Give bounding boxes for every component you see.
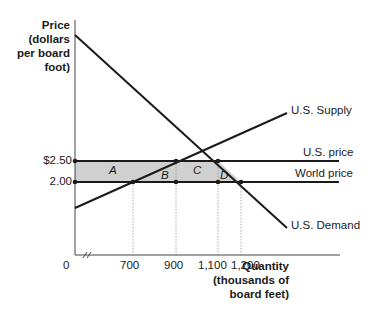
x-tick-900: 900 xyxy=(164,259,183,271)
x-label-line: Quantity xyxy=(213,259,289,273)
y-label-line: (dollars xyxy=(17,32,70,46)
y-label-line: foot) xyxy=(17,60,70,74)
y-label-line: Price xyxy=(17,18,70,32)
area-c-label: C xyxy=(193,164,201,176)
x-label-line: (thousands of xyxy=(213,273,289,287)
x-axis-label: Quantity (thousands of board feet) xyxy=(213,259,289,301)
us-demand-line xyxy=(75,35,287,228)
demand-label: U.S. Demand xyxy=(291,219,360,231)
y-axis-label: Price (dollars per board foot) xyxy=(17,18,70,74)
area-b-label: B xyxy=(161,169,169,181)
us-price-label: U.S. price xyxy=(303,146,354,158)
y-tick-250: $2.50 xyxy=(43,154,72,166)
x-tick-0: 0 xyxy=(63,259,69,271)
x-label-line: board feet) xyxy=(213,287,289,301)
area-a-label: A xyxy=(109,164,117,176)
supply-label: U.S. Supply xyxy=(291,104,352,116)
world-price-label: World price xyxy=(295,167,353,179)
y-tick-200: 2.00 xyxy=(50,175,72,187)
y-label-line: per board xyxy=(17,46,70,60)
area-d-label: D xyxy=(220,169,228,181)
x-tick-700: 700 xyxy=(120,259,139,271)
